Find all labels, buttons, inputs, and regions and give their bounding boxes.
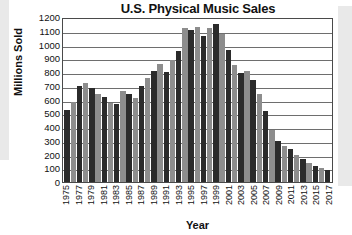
- bar: [201, 36, 206, 182]
- bar: [83, 83, 88, 182]
- bar: [213, 24, 218, 182]
- bar: [207, 28, 212, 182]
- y-axis-tick-labels: 1200110010009008007006005004003002001000: [28, 18, 60, 183]
- bar: [232, 65, 237, 182]
- y-axis-label: Millions Sold: [12, 22, 24, 102]
- bar: [319, 168, 324, 182]
- y-tick-label: 500: [44, 110, 60, 120]
- bar: [313, 166, 318, 183]
- y-tick-label: 200: [44, 151, 60, 161]
- y-tick-label: 1100: [40, 27, 60, 37]
- bar: [282, 146, 287, 182]
- y-tick-label: 100: [44, 165, 60, 175]
- bar: [157, 64, 162, 182]
- chart-title: U.S. Physical Music Sales: [62, 1, 334, 16]
- x-tick-label: 2017: [324, 185, 333, 205]
- y-tick-label: 900: [44, 55, 60, 65]
- bar: [182, 28, 187, 182]
- y-tick-label: 700: [44, 82, 60, 92]
- bar: [126, 94, 131, 182]
- y-tick-label: 1000: [39, 41, 60, 51]
- bar: [151, 71, 156, 182]
- bar: [188, 30, 193, 182]
- x-tick-slot: 2017: [326, 185, 332, 218]
- bar: [269, 130, 274, 182]
- bar: [288, 149, 293, 182]
- bar: [244, 71, 249, 182]
- bar: [64, 110, 69, 182]
- bar: [95, 94, 100, 182]
- y-tick-label: 1200: [39, 13, 60, 23]
- bar: [325, 170, 330, 182]
- bar: [77, 86, 82, 182]
- bar: [300, 159, 305, 182]
- y-tick-label: 600: [44, 96, 60, 106]
- bar: [133, 98, 138, 182]
- bar: [71, 102, 76, 182]
- bar: [238, 73, 243, 182]
- bar: [257, 94, 262, 182]
- bar: [275, 141, 280, 182]
- scan-artifact-left: [0, 0, 9, 160]
- y-tick-label: 400: [44, 123, 60, 133]
- plot-area: [62, 18, 333, 183]
- x-axis-label: Year: [62, 219, 333, 231]
- bar: [108, 103, 113, 182]
- scan-artifact-right: [338, 6, 352, 186]
- bar: [219, 34, 224, 182]
- bar: [170, 60, 175, 182]
- bar: [306, 163, 311, 182]
- bar-series: [63, 19, 332, 182]
- bar: [102, 97, 107, 182]
- bar: [164, 72, 169, 182]
- chart-figure: U.S. Physical Music Sales Millions Sold …: [0, 0, 352, 235]
- bar: [195, 27, 200, 182]
- y-tick-label: 0: [55, 178, 60, 188]
- bar: [294, 155, 299, 183]
- y-tick-label: 300: [44, 137, 60, 147]
- bar: [250, 80, 255, 182]
- bar: [226, 50, 231, 182]
- bar: [263, 111, 268, 183]
- y-tick-label: 800: [44, 68, 60, 78]
- bar: [145, 78, 150, 182]
- bar: [176, 51, 181, 182]
- bar: [114, 104, 119, 182]
- bar: [89, 88, 94, 182]
- bar: [120, 91, 125, 182]
- bar: [139, 86, 144, 182]
- x-axis-tick-labels: 1975197719791981198319851987198919911993…: [62, 185, 333, 218]
